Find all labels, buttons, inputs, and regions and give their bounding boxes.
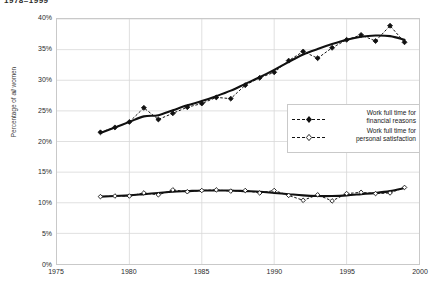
y-axis-tick: 10% <box>18 199 52 207</box>
x-axis-tick: 1990 <box>254 268 294 275</box>
y-axis-tick: 35% <box>18 45 52 53</box>
legend-label-line-2: personal satisfaction <box>326 135 416 143</box>
x-axis-tick: 1980 <box>109 268 149 275</box>
legend-label-line-1: Work full time for <box>326 109 416 117</box>
legend-label-line-2: financial reasons <box>326 117 416 125</box>
x-axis-tick: 2000 <box>400 268 440 275</box>
chart-figure: 1978–1999 Percentage of all women 40%35%… <box>0 0 441 299</box>
filled-diamond-marker-key <box>292 110 326 119</box>
open-diamond-marker-key <box>292 128 326 137</box>
chart-legend: Work full time for financial reasons Wor… <box>287 104 420 153</box>
y-axis-tick: 25% <box>18 107 52 115</box>
x-axis-tick: 1975 <box>36 268 76 275</box>
legend-item: Work full time for financial reasons <box>292 109 416 124</box>
y-axis-tick: 40% <box>18 14 52 22</box>
y-axis-tick-labels: 40%35%30%25%20%15%10%5%0% <box>14 0 52 299</box>
x-axis-tick: 1995 <box>327 268 367 275</box>
x-axis-tick-labels: 197519801985199019952000 <box>0 268 441 282</box>
legend-item-label: Work full time for personal satisfaction <box>326 127 416 142</box>
legend-item-label: Work full time for financial reasons <box>326 109 416 124</box>
y-axis-tick: 30% <box>18 76 52 84</box>
legend-label-line-1: Work full time for <box>326 127 416 135</box>
y-axis-tick: 5% <box>18 230 52 238</box>
y-axis-tick: 15% <box>18 168 52 176</box>
legend-item: Work full time for personal satisfaction <box>292 127 416 142</box>
x-axis-tick: 1985 <box>182 268 222 275</box>
y-axis-tick: 20% <box>18 138 52 146</box>
chart-caption <box>8 288 438 296</box>
